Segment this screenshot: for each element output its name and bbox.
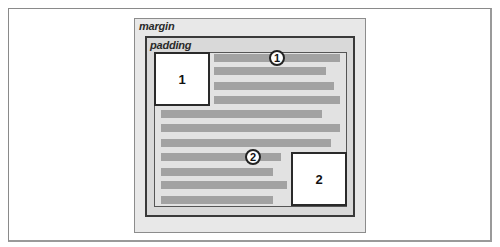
text-line [214, 96, 340, 104]
float-box-2: 2 [291, 152, 347, 206]
text-line [161, 139, 331, 147]
margin-label: margin [139, 20, 174, 32]
marker-2-icon: 2 [245, 149, 261, 165]
text-line [161, 168, 273, 176]
text-line [161, 196, 273, 204]
float-box-2-label: 2 [315, 172, 322, 187]
padding-label: padding [150, 39, 191, 51]
text-line [161, 110, 322, 118]
text-line [214, 67, 326, 75]
marker-2-label: 2 [250, 152, 256, 163]
marker-1-label: 1 [274, 53, 280, 64]
text-line [214, 82, 334, 90]
text-line [161, 181, 287, 189]
float-box-1: 1 [154, 52, 210, 106]
float-box-1-label: 1 [178, 72, 185, 87]
text-line [161, 124, 340, 132]
text-line [161, 153, 281, 161]
marker-1-icon: 1 [269, 50, 285, 66]
